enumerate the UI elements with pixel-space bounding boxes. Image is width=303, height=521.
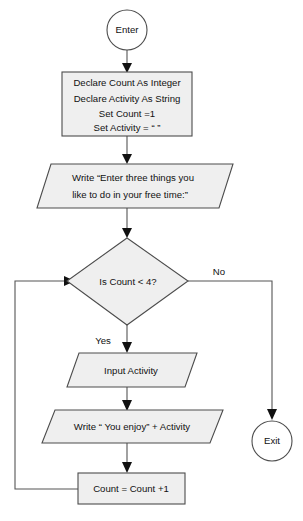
node-output-label: Write “ You enjoy” + Activity <box>74 421 191 432</box>
node-end-label: Exit <box>264 435 280 446</box>
node-declare-line1: Declare Count As Integer <box>73 77 181 88</box>
arrowhead-output-to-increment <box>122 462 132 473</box>
edge-label-no: No <box>213 266 225 277</box>
arrowhead-decision-no-to-exit <box>267 409 277 420</box>
arrowhead-input-to-output <box>122 400 132 411</box>
node-prompt-line2: like to do in your free time:” <box>72 189 188 200</box>
flowchart-svg: Enter Declare Count As Integer Declare A… <box>0 0 303 521</box>
arrowhead-decision-yes-to-input <box>122 342 132 353</box>
node-increment-label: Count = Count +1 <box>93 483 169 494</box>
arrowhead-declare-to-prompt <box>122 154 132 164</box>
connector-decision-no-to-exit <box>188 281 272 412</box>
arrowhead-prompt-to-decision <box>122 228 132 238</box>
node-input-label: Input Activity <box>104 365 158 376</box>
node-start-label: Enter <box>116 24 140 35</box>
edge-label-yes: Yes <box>95 335 111 346</box>
node-declare-line3: Set Count =1 <box>99 108 155 119</box>
flowchart-canvas: Enter Declare Count As Integer Declare A… <box>0 0 303 521</box>
node-decision-label: Is Count < 4? <box>99 276 156 287</box>
node-declare-line4: Set Activity = “ ” <box>94 122 161 133</box>
node-prompt-line1: Write “Enter three things you <box>72 172 194 183</box>
node-declare-line2: Declare Activity As String <box>74 93 181 104</box>
